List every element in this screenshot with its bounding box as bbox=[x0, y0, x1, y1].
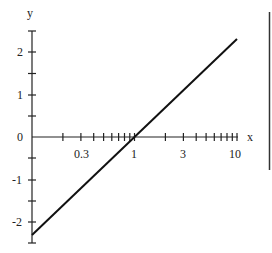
x-axis-label: x bbox=[247, 130, 253, 144]
x-tick-label: 3 bbox=[180, 147, 186, 161]
y-tick-label: 2 bbox=[17, 45, 23, 59]
x-tick-label: 1 bbox=[131, 147, 137, 161]
y-axis-label: y bbox=[27, 6, 33, 20]
y-tick-label: -2 bbox=[12, 215, 22, 229]
plot-canvas: y x 2 1 0 -1 -2 0.3 1 3 10 bbox=[0, 0, 272, 253]
x-tick-label: 10 bbox=[229, 147, 241, 161]
y-tick-label: 0 bbox=[17, 130, 23, 144]
y-tick-label: -1 bbox=[12, 173, 22, 187]
y-tick-label: 1 bbox=[17, 88, 23, 102]
x-tick-label: 0.3 bbox=[74, 147, 89, 161]
